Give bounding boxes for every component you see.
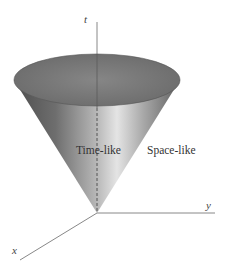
- t-axis-label: t: [84, 13, 88, 25]
- x-axis-label: x: [11, 244, 17, 256]
- light-cone-diagram: t y x Time-like Space-like: [0, 0, 225, 272]
- time-like-label: Time-like: [76, 144, 121, 156]
- x-axis: [20, 213, 97, 260]
- space-like-label: Space-like: [147, 144, 196, 157]
- y-axis-label: y: [205, 199, 211, 211]
- light-cone-figure: t y x Time-like Space-like: [0, 0, 225, 272]
